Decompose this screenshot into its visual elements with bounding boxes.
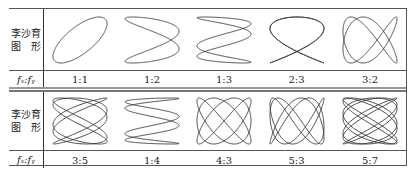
ratio-cell: 1:3 [188, 71, 260, 88]
lissajous-figure-5-3 [260, 92, 333, 150]
label-line-2: 图 形 [9, 40, 43, 53]
lissajous-figure-3-2 [333, 9, 407, 70]
ratio-row: 1:1 1:2 1:3 2:3 3:2 [44, 70, 406, 88]
lissajous-figure-5-7 [333, 92, 407, 150]
ratio-cell: 2:3 [260, 71, 333, 88]
lissajous-table: 李沙育 图 形 fₓ:fᵧ 1:1 1:2 1:3 2:3 3:2 李沙育 图 … [9, 8, 407, 166]
ratio-cell: 1:4 [116, 151, 188, 169]
lissajous-figure-1-1 [44, 9, 116, 70]
ratio-row-label: fₓ:fᵧ [9, 70, 44, 87]
label-line-1: 李沙育 [9, 108, 43, 121]
ratio-cell: 4:3 [188, 151, 260, 169]
figure-row [44, 92, 406, 150]
figure-row-label: 李沙育 图 形 [9, 92, 44, 150]
lissajous-figure-4-3 [188, 92, 260, 150]
block-divider [9, 87, 406, 89]
lissajous-figure-1-4 [116, 92, 188, 150]
ratio-cell: 3:5 [44, 151, 116, 169]
lissajous-figure-1-3 [188, 9, 260, 70]
ratio-cell: 1:1 [44, 71, 116, 88]
label-line-2: 图 形 [9, 121, 43, 134]
lissajous-figure-2-3 [260, 9, 333, 70]
ratio-cell: 3:2 [333, 71, 407, 88]
table-block-1: 李沙育 图 形 fₓ:fᵧ 1:1 1:2 1:3 2:3 3:2 [9, 9, 406, 87]
lissajous-figure-1-2 [116, 9, 188, 70]
ratio-row-label: fₓ:fᵧ [9, 150, 44, 168]
figure-row-label: 李沙育 图 形 [9, 9, 44, 70]
table-block-2: 李沙育 图 形 fₓ:fᵧ 3:5 1:4 4:3 5:3 5:7 [9, 90, 406, 168]
ratio-cell: 5:3 [260, 151, 333, 169]
label-line-1: 李沙育 [9, 27, 43, 40]
ratio-row: 3:5 1:4 4:3 5:3 5:7 [44, 150, 406, 169]
figure-row [44, 9, 406, 70]
lissajous-figure-3-5 [44, 92, 116, 150]
ratio-cell: 5:7 [333, 151, 407, 169]
ratio-cell: 1:2 [116, 71, 188, 88]
